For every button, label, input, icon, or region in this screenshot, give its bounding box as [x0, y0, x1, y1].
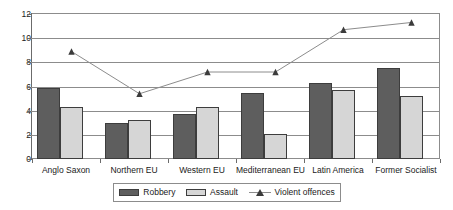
bar-group: [372, 14, 440, 159]
y-axis: 121086420: [0, 0, 31, 210]
x-axis-label: Mediterranean EU: [236, 165, 304, 175]
bar-group: [236, 14, 304, 159]
x-axis-label: Anglo Saxon: [32, 165, 100, 175]
bar-robbery: [377, 68, 400, 159]
bar-group: [32, 14, 100, 159]
bar-group: [168, 14, 236, 159]
x-axis-tick-mark: [168, 159, 169, 163]
x-axis-tick-mark: [100, 159, 101, 163]
x-axis-label: Former Socialist: [372, 165, 440, 175]
robbery-swatch-icon: [119, 189, 139, 196]
legend-label-violent-offences: Violent offences: [275, 188, 335, 197]
legend-item-violent-offences: Violent offences: [249, 188, 335, 197]
bar-robbery: [241, 93, 264, 159]
legend-item-robbery: Robbery: [119, 188, 175, 197]
chart-container: 121086420 Anglo SaxonNorthern EUWestern …: [0, 0, 453, 210]
bar-robbery: [37, 88, 60, 159]
x-axis-label: Latin America: [304, 165, 372, 175]
x-axis-tick-mark: [440, 159, 441, 163]
bar-robbery: [105, 123, 128, 159]
chart-legend: Robbery Assault Violent offences: [113, 183, 341, 202]
assault-swatch-icon: [186, 189, 206, 196]
violent-offences-marker-icon: [249, 189, 271, 197]
x-axis-tick-mark: [32, 159, 33, 163]
plot-area: [32, 14, 440, 159]
x-axis-label: Western EU: [168, 165, 236, 175]
bar-assault: [196, 107, 219, 159]
x-axis-label: Northern EU: [100, 165, 168, 175]
bar-group: [304, 14, 372, 159]
x-axis-tick-mark: [304, 159, 305, 163]
bar-group: [100, 14, 168, 159]
x-axis-tick-mark: [236, 159, 237, 163]
legend-label-robbery: Robbery: [143, 188, 175, 197]
bar-assault: [332, 90, 355, 159]
bar-assault: [128, 120, 151, 159]
bar-robbery: [309, 83, 332, 159]
bar-assault: [400, 96, 423, 159]
bar-assault: [264, 134, 287, 159]
bar-robbery: [173, 114, 196, 159]
x-axis-tick-mark: [372, 159, 373, 163]
legend-item-assault: Assault: [186, 188, 238, 197]
bar-assault: [60, 107, 83, 159]
legend-label-assault: Assault: [210, 188, 238, 197]
